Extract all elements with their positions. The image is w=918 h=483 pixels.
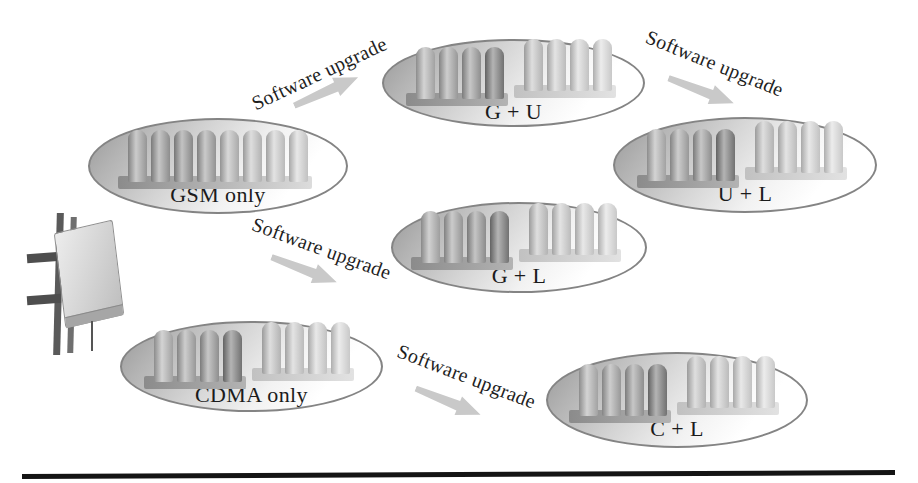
- node-u-plus-l: U + L: [613, 117, 877, 213]
- bar-group-light: [260, 322, 352, 374]
- base-station-icon: [25, 213, 130, 358]
- node-c-plus-l: C + L: [546, 352, 808, 448]
- bar-group-dark: [419, 211, 511, 263]
- bar-group-light: [527, 203, 619, 255]
- signal-bars: [645, 129, 845, 181]
- arrow-label: Software upgrade: [234, 26, 406, 125]
- bar-group-dark: [152, 330, 244, 382]
- signal-bars: [419, 211, 619, 263]
- bar-group-dark: [414, 47, 506, 99]
- node-g-plus-l: G + L: [391, 202, 647, 293]
- bar-group-dark: [645, 129, 737, 181]
- bar-group-light: [753, 121, 845, 173]
- node-gsm-only: GSM only: [88, 118, 348, 214]
- bar-group-light: [685, 356, 777, 408]
- bar-group: [126, 130, 310, 182]
- cabinet-cable: [91, 321, 93, 351]
- node-g-plus-u: G + U: [382, 39, 645, 127]
- signal-bars: [126, 130, 310, 182]
- signal-bars: [152, 330, 352, 382]
- radio-cabinet: [54, 220, 124, 329]
- bottom-rule-divider: [22, 470, 895, 479]
- figure-canvas: GSM only G + U U + L G + L CDMA only: [0, 0, 918, 483]
- signal-bars: [577, 364, 777, 416]
- node-cdma-only: CDMA only: [120, 321, 383, 412]
- bar-group-light: [522, 39, 614, 91]
- bar-group-dark: [577, 364, 669, 416]
- signal-bars: [414, 47, 614, 99]
